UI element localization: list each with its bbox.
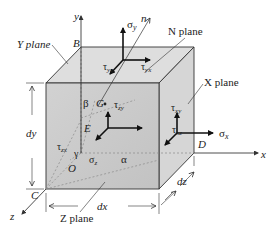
n-axis-label: n bbox=[141, 12, 147, 24]
sigma-x-label: σx bbox=[219, 127, 229, 141]
z-plane-label: Z plane bbox=[60, 212, 93, 224]
x-plane-label: X plane bbox=[204, 76, 239, 88]
dimension-dz-label: dz bbox=[177, 175, 188, 187]
dimension-dx-label: dx bbox=[97, 200, 108, 212]
dimension-dy-label: dy bbox=[26, 127, 37, 139]
point-b-label: B bbox=[73, 37, 80, 49]
point-d-label: D bbox=[197, 138, 206, 150]
point-g-label: G bbox=[96, 97, 104, 109]
angle-alpha-label: α bbox=[121, 153, 127, 165]
point-o-label: O bbox=[68, 162, 76, 174]
n-plane-label: N plane bbox=[168, 25, 203, 37]
point-g-dot bbox=[104, 103, 107, 106]
x-axis-label: x bbox=[260, 148, 266, 160]
y-axis-label: y bbox=[73, 10, 79, 22]
angle-gamma-label: γ bbox=[73, 148, 79, 159]
angle-beta-label: β bbox=[83, 97, 89, 109]
point-e-label: E bbox=[83, 122, 91, 134]
y-plane-label: Y plane bbox=[17, 38, 50, 50]
sigma-y-label: σy bbox=[127, 18, 137, 32]
stress-element-diagram: y x z n B C D O G E Y plane N plane X pl… bbox=[0, 0, 272, 238]
y-plane-leader bbox=[52, 45, 68, 64]
point-c-label: C bbox=[31, 189, 39, 201]
z-axis-label: z bbox=[9, 210, 15, 222]
